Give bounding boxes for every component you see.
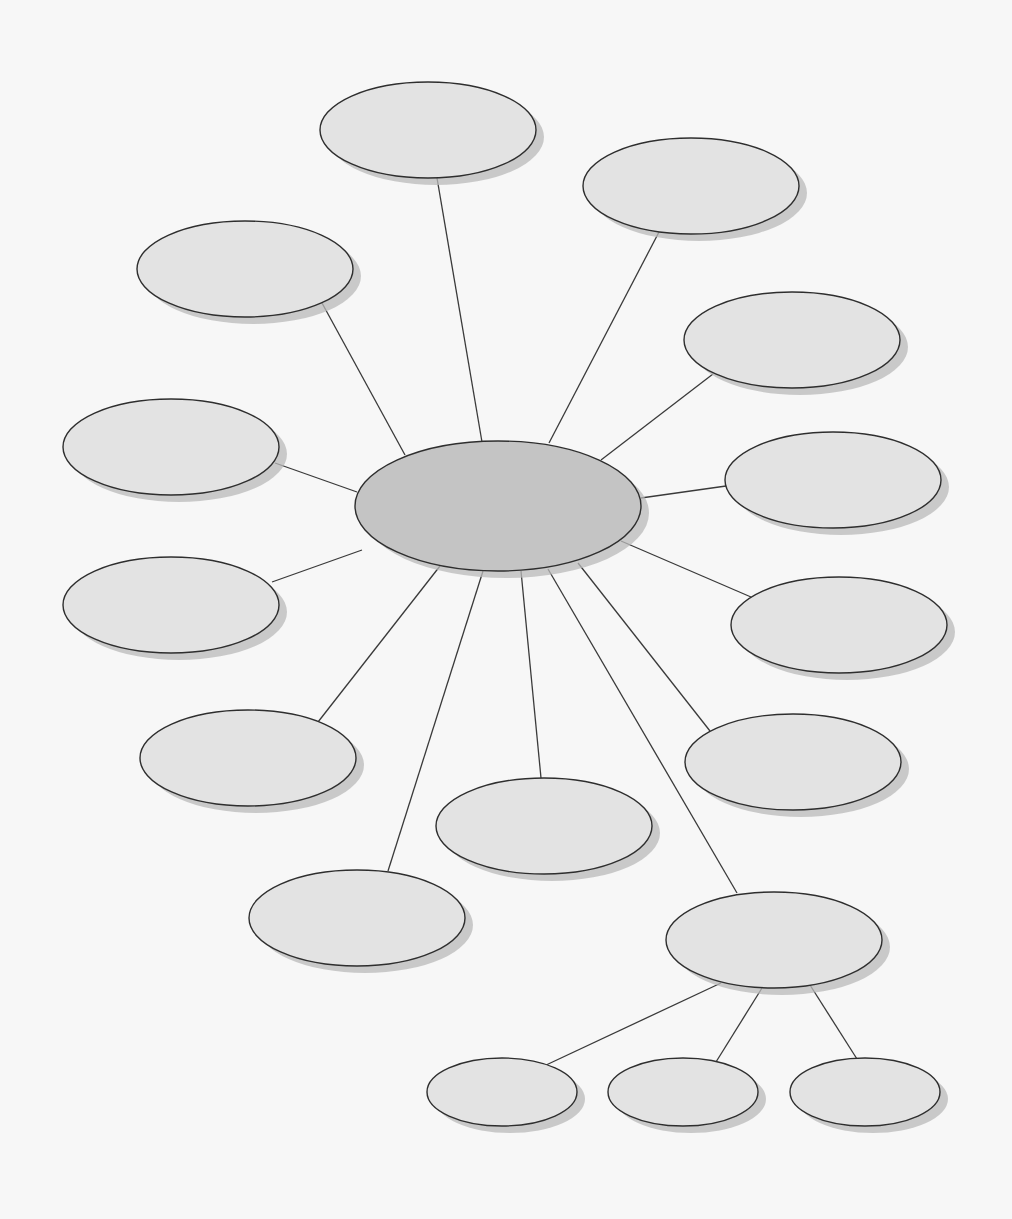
node-ellipse bbox=[790, 1058, 940, 1126]
node-ellipse bbox=[320, 82, 536, 178]
concept-map-canvas bbox=[0, 0, 1012, 1219]
node-ellipse bbox=[137, 221, 353, 317]
node-ellipse bbox=[685, 714, 901, 810]
node-ellipse bbox=[249, 870, 465, 966]
node-ellipse bbox=[666, 892, 882, 988]
node-ellipse bbox=[731, 577, 947, 673]
node-ellipse bbox=[684, 292, 900, 388]
node-ellipse bbox=[725, 432, 941, 528]
node-ellipse bbox=[63, 557, 279, 653]
node-ellipse bbox=[63, 399, 279, 495]
node-ellipse bbox=[436, 778, 652, 874]
node-ellipse bbox=[583, 138, 799, 234]
central-node-ellipse bbox=[355, 441, 641, 571]
node-ellipse bbox=[427, 1058, 577, 1126]
node-ellipse bbox=[140, 710, 356, 806]
node-ellipse bbox=[608, 1058, 758, 1126]
